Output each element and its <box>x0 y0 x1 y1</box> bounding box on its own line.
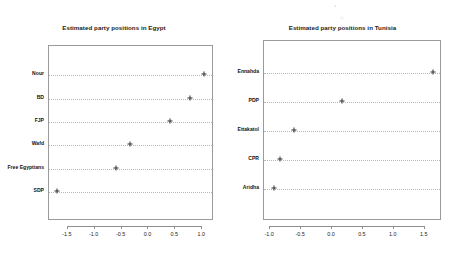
plot-area-egypt <box>48 45 213 220</box>
gridline <box>49 75 212 76</box>
gridline <box>264 189 440 190</box>
gridline <box>264 102 440 103</box>
plot-area-tunisia <box>263 40 441 220</box>
data-point-marker <box>430 70 435 75</box>
x-axis-tick <box>94 226 95 229</box>
scan-artifact-circle: ○ <box>340 15 344 21</box>
y-axis-label: Free Egyptians <box>7 165 44 170</box>
x-axis-tick-label: -1.5 <box>62 232 71 237</box>
x-axis-tick-label: -1.0 <box>89 232 98 237</box>
x-axis-tick <box>147 226 148 229</box>
x-axis-tick <box>201 226 202 229</box>
chart-panel-egypt: Estimated party positions in Egypt NourB… <box>0 0 228 260</box>
data-point-marker <box>188 95 193 100</box>
x-axis-tick-label: -1.0 <box>265 232 274 237</box>
data-point-marker <box>278 156 283 161</box>
x-axis-tick-label: 1.5 <box>420 232 428 237</box>
y-axis-label: SDP <box>34 188 44 193</box>
y-axis-label: FJP <box>35 118 44 123</box>
x-axis-tick-label: 1.0 <box>197 232 205 237</box>
gridline <box>49 192 212 193</box>
data-point-marker <box>291 128 296 133</box>
gridline <box>264 160 440 161</box>
panel-title-egypt: Estimated party positions in Egypt <box>0 25 228 31</box>
data-point-marker <box>271 185 276 190</box>
x-axis-tick <box>300 226 301 229</box>
scan-artifact-dot: ° <box>334 4 336 10</box>
x-axis-tick-label: 0.0 <box>144 232 152 237</box>
data-point-marker <box>340 99 345 104</box>
data-point-marker <box>168 118 173 123</box>
figure: Estimated party positions in Egypt NourB… <box>0 0 457 260</box>
x-axis-tick <box>269 226 270 229</box>
x-axis-tick <box>174 226 175 229</box>
chart-panel-tunisia: ° ○ Estimated party positions in Tunisia… <box>228 0 457 260</box>
y-axis-label: Ennahda <box>237 70 259 75</box>
x-axis-tick-label: -0.5 <box>116 232 125 237</box>
data-point-marker <box>114 165 119 170</box>
x-axis-tick-label: 0.0 <box>327 232 335 237</box>
data-point-marker <box>127 142 132 147</box>
y-axis-label: CPR <box>248 156 259 161</box>
x-axis-tick <box>67 226 68 229</box>
x-axis-tick <box>121 226 122 229</box>
x-axis-line <box>67 226 201 227</box>
gridline <box>49 169 212 170</box>
gridline <box>264 73 440 74</box>
x-axis-line <box>269 226 424 227</box>
y-axis-label: Aridha <box>243 185 259 190</box>
x-axis-tick-label: 0.5 <box>358 232 366 237</box>
x-axis-tick-label: -0.5 <box>295 232 304 237</box>
x-axis-tick-label: 1.0 <box>389 232 397 237</box>
data-point-marker <box>201 72 206 77</box>
data-point-marker <box>55 188 60 193</box>
y-axis-label: Wafd <box>32 142 44 147</box>
panel-title-tunisia: Estimated party positions in Tunisia <box>228 25 457 31</box>
x-axis-tick <box>362 226 363 229</box>
y-axis-label: Ettakatol <box>237 127 259 132</box>
x-axis-tick <box>393 226 394 229</box>
y-axis-label: BD <box>37 95 44 100</box>
y-axis-label: Nour <box>32 72 44 77</box>
x-axis-tick <box>424 226 425 229</box>
x-axis-tick <box>331 226 332 229</box>
gridline <box>49 122 212 123</box>
gridline <box>264 131 440 132</box>
y-axis-label: PDP <box>249 99 259 104</box>
x-axis-tick-label: 0.5 <box>171 232 179 237</box>
